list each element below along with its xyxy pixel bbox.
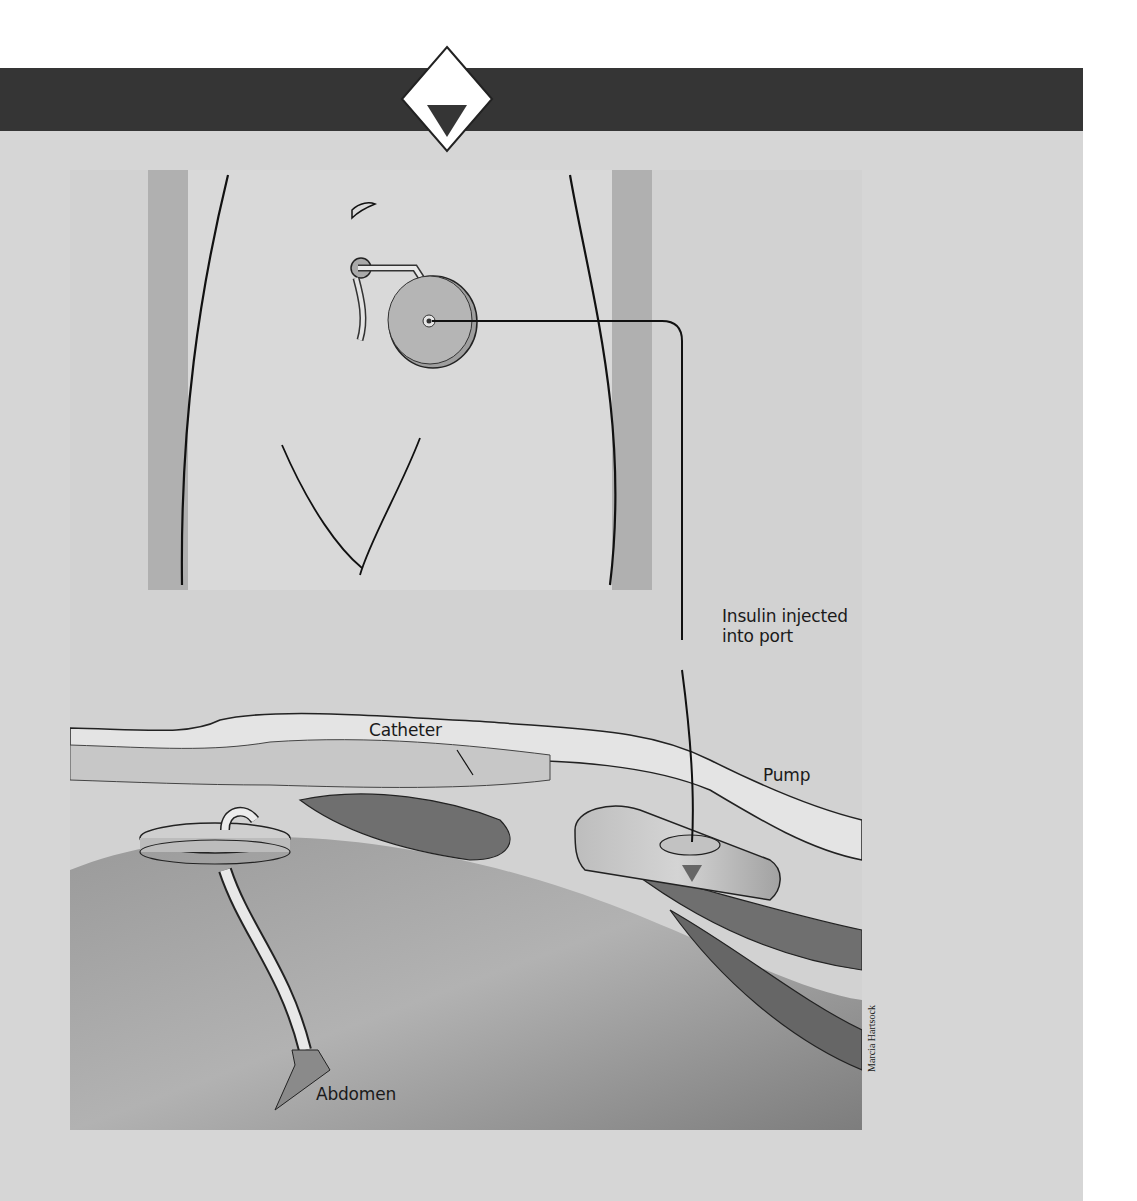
front-view-torso	[148, 170, 652, 590]
label-line-1: Insulin injected	[722, 606, 848, 626]
label-abdomen: Abdomen	[316, 1084, 396, 1104]
label-catheter: Catheter	[369, 720, 442, 740]
insulin-pump-illustration	[70, 170, 862, 1130]
label-line-2: into port	[722, 626, 848, 646]
diamond-marker-icon	[400, 45, 494, 153]
label-insulin-injected: Insulin injected into port	[722, 606, 848, 646]
illustrator-credit: Marcia Hartsock	[866, 1005, 877, 1072]
label-pump: Pump	[763, 765, 810, 785]
header-band	[0, 68, 1083, 131]
